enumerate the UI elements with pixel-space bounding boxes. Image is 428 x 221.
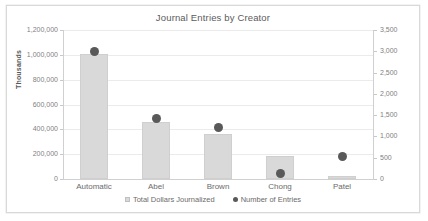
data-point-marker[interactable] bbox=[276, 169, 285, 178]
gridline bbox=[63, 30, 373, 31]
right-axis-tick bbox=[374, 115, 377, 116]
category-label: Chong bbox=[249, 182, 311, 191]
left-axis-tick bbox=[60, 154, 63, 155]
category-label: Automatic bbox=[63, 182, 125, 191]
right-axis-tick-label: 0 bbox=[380, 175, 384, 183]
category-axis-line bbox=[63, 179, 374, 180]
bar[interactable] bbox=[80, 54, 108, 179]
left-axis-tick bbox=[60, 80, 63, 81]
left-axis-line bbox=[63, 30, 64, 180]
right-axis-tick bbox=[374, 30, 377, 31]
right-axis-tick-label: 3,000 bbox=[380, 47, 398, 55]
chart-legend: Total Dollars JournalizedNumber of Entri… bbox=[7, 195, 419, 204]
data-point-marker[interactable] bbox=[152, 114, 161, 123]
chart-title: Journal Entries by Creator bbox=[7, 12, 419, 23]
right-axis-tick bbox=[374, 136, 377, 137]
left-axis-tick-label: 600,000 bbox=[7, 101, 58, 109]
right-axis-tick-label: 2,500 bbox=[380, 69, 398, 77]
gridline bbox=[63, 80, 373, 81]
chart-container: Journal Entries by Creator Thousands 020… bbox=[6, 5, 420, 213]
data-point-marker[interactable] bbox=[214, 123, 223, 132]
right-axis-tick-label: 500 bbox=[380, 154, 392, 162]
category-label: Patel bbox=[311, 182, 373, 191]
category-label: Abel bbox=[125, 182, 187, 191]
gridline bbox=[63, 105, 373, 106]
left-axis-tick bbox=[60, 30, 63, 31]
data-point-marker[interactable] bbox=[90, 47, 99, 56]
category-label: Brown bbox=[187, 182, 249, 191]
bar[interactable] bbox=[204, 134, 232, 179]
legend-label: Number of Entries bbox=[241, 195, 301, 204]
right-axis-tick-label: 2,000 bbox=[380, 90, 398, 98]
left-axis-tick-label: 0 bbox=[7, 175, 58, 183]
right-axis-tick bbox=[374, 179, 377, 180]
bar[interactable] bbox=[328, 176, 356, 179]
right-axis-tick bbox=[374, 51, 377, 52]
legend-square-icon bbox=[125, 197, 130, 202]
left-axis-tick-label: 1,200,000 bbox=[7, 26, 58, 34]
left-axis-tick-label: 400,000 bbox=[7, 125, 58, 133]
right-axis-tick-label: 1,000 bbox=[380, 132, 398, 140]
left-axis-tick-label: 200,000 bbox=[7, 150, 58, 158]
left-axis-tick bbox=[60, 105, 63, 106]
legend-item[interactable]: Total Dollars Journalized bbox=[125, 195, 215, 204]
right-axis-tick bbox=[374, 158, 377, 159]
legend-circle-icon bbox=[233, 197, 238, 202]
right-axis-tick bbox=[374, 73, 377, 74]
gridline bbox=[63, 55, 373, 56]
data-point-marker[interactable] bbox=[338, 152, 347, 161]
bar[interactable] bbox=[142, 122, 170, 179]
right-axis-tick-label: 1,500 bbox=[380, 111, 398, 119]
left-axis-tick bbox=[60, 179, 63, 180]
left-axis-tick bbox=[60, 55, 63, 56]
legend-label: Total Dollars Journalized bbox=[133, 195, 215, 204]
left-axis-tick-label: 1,000,000 bbox=[7, 51, 58, 59]
left-axis-tick bbox=[60, 129, 63, 130]
legend-item[interactable]: Number of Entries bbox=[233, 195, 301, 204]
right-axis-tick bbox=[374, 94, 377, 95]
left-axis-tick-label: 800,000 bbox=[7, 76, 58, 84]
right-axis-tick-label: 3,500 bbox=[380, 26, 398, 34]
